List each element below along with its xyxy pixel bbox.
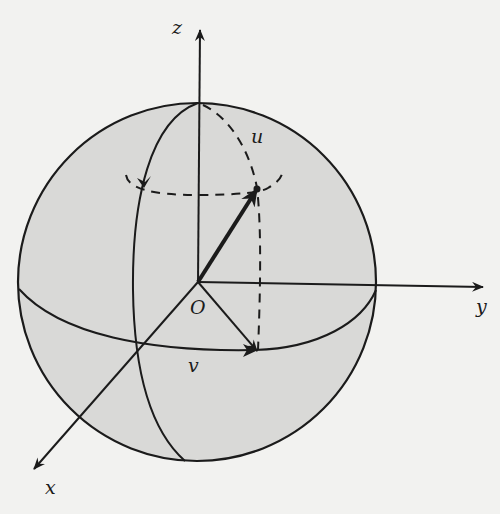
x-axis-label: x xyxy=(45,478,56,497)
sphere-diagram-graphic xyxy=(0,0,500,514)
vector-v-label: v xyxy=(188,356,199,375)
y-axis-label: y xyxy=(476,297,487,316)
z-axis-label: z xyxy=(172,18,182,37)
vector-u-label: u xyxy=(251,127,263,146)
vector-u-tip-dot xyxy=(254,186,261,193)
sphere-diagram: z y x O u v xyxy=(0,0,500,514)
origin-label: O xyxy=(190,298,206,317)
